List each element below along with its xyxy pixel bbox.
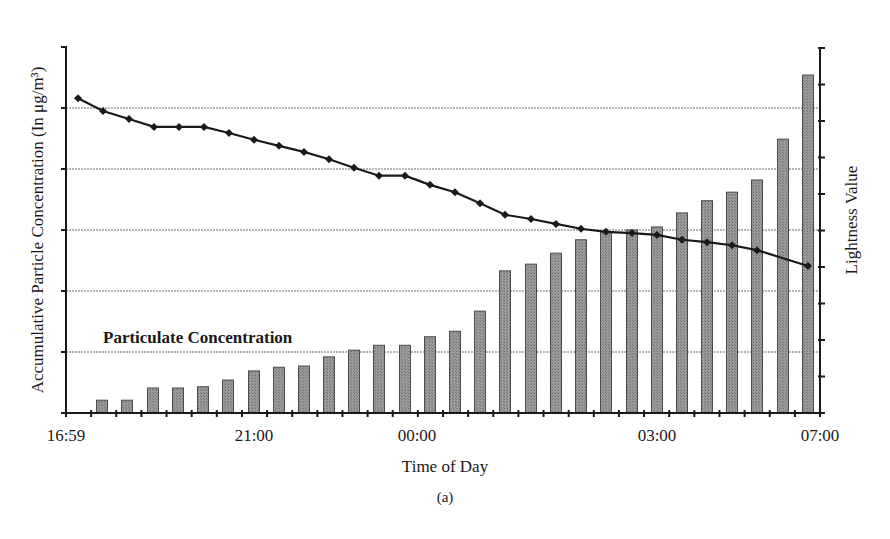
- y-axis-left-title: Accumulative Particle Concentration (In …: [28, 67, 48, 394]
- x-tick-label: 03:00: [638, 426, 677, 446]
- x-tick-label: 16:59: [47, 426, 86, 446]
- line-marker: [375, 172, 383, 180]
- x-tick-label: 00:00: [398, 426, 437, 446]
- bar: [576, 240, 587, 413]
- line-marker: [250, 136, 258, 144]
- line-marker: [200, 123, 208, 131]
- line-marker: [577, 225, 585, 233]
- bar: [627, 230, 638, 413]
- bar: [425, 337, 436, 413]
- bar: [173, 388, 184, 413]
- bar: [526, 264, 537, 413]
- line-marker: [275, 142, 283, 150]
- bar: [249, 371, 260, 413]
- bar: [450, 331, 461, 413]
- bar: [324, 357, 335, 413]
- bar: [702, 201, 713, 413]
- bar: [752, 180, 763, 413]
- line-marker: [300, 148, 308, 156]
- bar: [500, 271, 511, 413]
- bar: [97, 400, 108, 413]
- line-marker: [150, 123, 158, 131]
- bar: [652, 227, 663, 413]
- line-marker: [350, 164, 358, 172]
- line-marker: [175, 123, 183, 131]
- bar: [122, 400, 133, 413]
- bar: [374, 345, 385, 413]
- bar: [601, 232, 612, 413]
- figure-caption: (a): [437, 489, 454, 506]
- line-marker: [74, 94, 82, 102]
- line-marker: [451, 188, 459, 196]
- line-marker: [476, 199, 484, 207]
- x-axis-title: Time of Day: [402, 457, 488, 477]
- line-marker: [325, 155, 333, 163]
- series-annotation-particulate: Particulate Concentration: [103, 328, 292, 348]
- bar: [551, 253, 562, 413]
- line-marker: [501, 211, 509, 219]
- x-tick-label: 21:00: [235, 426, 274, 446]
- bar: [475, 311, 486, 413]
- bar: [148, 388, 159, 413]
- bar: [400, 345, 411, 413]
- bar: [299, 366, 310, 413]
- line-marker: [426, 181, 434, 189]
- bar: [198, 387, 209, 413]
- y-axis-right-title: Lightness Value: [842, 166, 862, 275]
- bar: [727, 192, 738, 413]
- bar: [778, 139, 789, 413]
- x-tick-label: 07:00: [801, 426, 840, 446]
- line-marker: [401, 172, 409, 180]
- line-marker: [527, 215, 535, 223]
- line-marker: [125, 115, 133, 123]
- bar: [274, 367, 285, 413]
- line-marker: [552, 220, 560, 228]
- bar: [803, 75, 814, 413]
- bar: [349, 350, 360, 413]
- bar: [223, 380, 234, 413]
- line-marker: [225, 129, 233, 137]
